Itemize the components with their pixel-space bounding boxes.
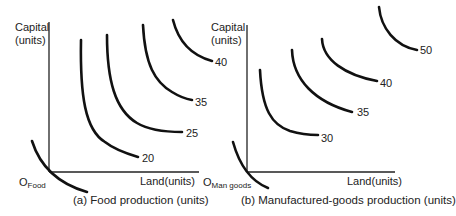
panel-b-y-label-line1: Capital [211, 21, 245, 34]
panel-b-origin-main: O [203, 176, 212, 188]
panel-a-isoquants [32, 20, 212, 192]
isoquant-b-50-label: 50 [420, 44, 432, 56]
panel-b-y-label-line2: (units) [211, 34, 245, 47]
isoquant-b-30-label: 30 [321, 132, 333, 144]
isoquant-a-35-label: 35 [195, 96, 207, 108]
isoquant-b-30 [260, 70, 318, 135]
panel-b-isoquants [233, 7, 417, 188]
panel-b-caption: (b) Manufactured-goods production (units… [241, 194, 456, 207]
isoquant-a-20 [81, 40, 138, 157]
panel-a-y-label-line2: (units) [15, 34, 49, 47]
panel-a-origin-main: O [19, 176, 28, 188]
panel-a-x-axis-label: Land(units) [140, 175, 195, 188]
isoquant-b-35-label: 35 [357, 106, 369, 118]
isoquant-a-40 [173, 20, 212, 61]
panel-a-y-axis-label: Capital (units) [15, 21, 49, 47]
panel-b-x-axis-label: Land(units) [347, 175, 402, 188]
isoquant-a-25-label: 25 [186, 127, 198, 139]
panel-a-caption: (a) Food production (units) [73, 194, 209, 207]
isoquant-a-35 [143, 25, 192, 100]
panel-a-origin-label: OFood [19, 176, 46, 192]
panel-a-origin-sub: Food [28, 181, 46, 190]
panel-a-axes [49, 22, 199, 172]
panel-a-y-label-line1: Capital [15, 21, 49, 34]
isoquant-a-40-label: 40 [215, 56, 227, 68]
isoquant-b-35 [292, 50, 352, 112]
panel-b-origin-sub: Man goods [212, 181, 252, 190]
isoquant-b-40 [322, 39, 377, 81]
panel-b-y-axis-label: Capital (units) [211, 21, 245, 47]
isoquant-b-50 [379, 7, 417, 50]
isoquant-a-20-label: 20 [142, 152, 154, 164]
panel-b-origin-label: OMan goods [203, 176, 251, 192]
isoquant-b-40-label: 40 [380, 77, 392, 89]
